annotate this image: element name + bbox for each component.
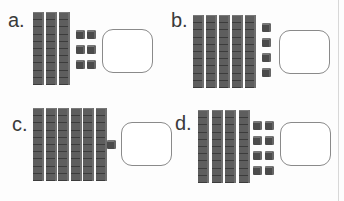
unit-cube xyxy=(76,60,85,69)
unit-cube xyxy=(76,45,85,54)
unit-cube xyxy=(262,68,271,77)
ten-rod xyxy=(46,108,57,181)
answer-box[interactable] xyxy=(280,122,331,166)
problem-label: a. xyxy=(8,10,25,30)
ten-rod xyxy=(239,110,250,183)
ten-rod xyxy=(33,12,44,85)
unit-cube xyxy=(107,140,116,149)
unit-cube xyxy=(76,30,85,39)
ten-rod xyxy=(206,15,217,88)
unit-cube xyxy=(253,166,262,175)
answer-box[interactable] xyxy=(121,122,172,166)
ten-rod xyxy=(245,15,256,88)
ten-rod xyxy=(71,108,82,181)
unit-cube xyxy=(265,136,274,145)
unit-cube xyxy=(265,151,274,160)
ten-rod xyxy=(193,15,204,88)
unit-cube xyxy=(262,53,271,62)
page-edge-divider xyxy=(338,0,339,201)
ten-rod xyxy=(198,110,209,183)
ten-rod xyxy=(225,110,236,183)
unit-cube xyxy=(262,38,271,47)
ten-rod xyxy=(59,12,70,85)
answer-box[interactable] xyxy=(102,29,153,73)
ten-rod xyxy=(219,15,230,88)
ten-rod xyxy=(83,108,94,181)
unit-cube xyxy=(262,23,271,32)
ten-rod xyxy=(33,108,44,181)
ten-rod xyxy=(58,108,69,181)
unit-cube xyxy=(253,136,262,145)
unit-cube xyxy=(253,151,262,160)
ten-rod xyxy=(96,108,107,181)
ten-rod xyxy=(212,110,223,183)
unit-cube xyxy=(253,121,262,130)
unit-cube xyxy=(87,30,96,39)
ten-rod xyxy=(46,12,57,85)
problem-label: d. xyxy=(175,113,192,133)
answer-box[interactable] xyxy=(279,30,330,74)
problem-label: c. xyxy=(12,114,28,134)
unit-cube xyxy=(265,166,274,175)
unit-cube xyxy=(87,45,96,54)
problem-label: b. xyxy=(171,10,188,30)
unit-cube xyxy=(265,121,274,130)
unit-cube xyxy=(87,60,96,69)
ten-rod xyxy=(232,15,243,88)
